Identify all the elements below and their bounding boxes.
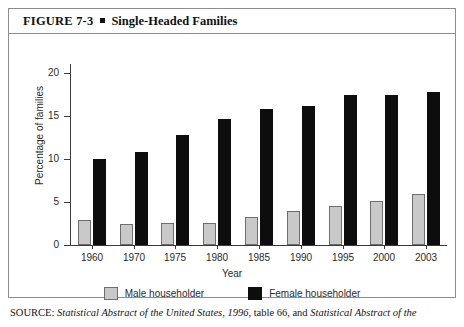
bar-male-1980 [203,223,216,245]
y-axis-tick-label: 0 [29,240,59,250]
bar-group [238,64,280,245]
x-axis-tick-label: 2003 [403,252,449,263]
x-axis-tick [301,245,302,249]
bar-male-1995 [329,206,342,245]
x-axis-title: Year [9,268,455,279]
source-label: SOURCE: [10,307,54,318]
bar-group [113,64,155,245]
x-axis-tick-label: 1995 [320,252,366,263]
bullet-icon [100,18,105,23]
legend-swatch-male-icon [104,287,118,300]
bar-male-1990 [287,211,300,245]
bar-group [196,64,238,245]
bar-female-1995 [344,95,357,245]
legend-item-male: Male householder [104,287,205,300]
y-axis-tick-label: 10 [29,154,59,164]
x-axis-tick [217,245,218,249]
bar-female-1990 [302,106,315,245]
bar-group [322,64,364,245]
bars-layer [71,64,447,245]
legend-label-female: Female householder [269,288,360,299]
bar-female-1960 [93,159,106,245]
x-axis-tick-label: 1975 [152,252,198,263]
x-axis-tick-label: 1990 [278,252,324,263]
bar-female-1970 [135,152,148,245]
x-axis-tick [134,245,135,249]
x-axis-tick [384,245,385,249]
y-axis-tick [64,116,70,117]
source-title-1: Statistical Abstract of the United State… [57,307,248,318]
source-note: SOURCE: Statistical Abstract of the Unit… [10,306,456,319]
y-axis-tick-label: 20 [29,68,59,78]
figure-frame: FIGURE 7-3 Single-Headed Families Percen… [8,8,456,298]
x-axis-tick [92,245,93,249]
bar-group [363,64,405,245]
bar-female-2000 [385,95,398,245]
bar-male-2003 [412,194,425,245]
legend-label-male: Male householder [125,288,205,299]
figure-title-band: FIGURE 7-3 Single-Headed Families [9,9,455,34]
source-title-2: Statistical Abstract of the [310,307,416,318]
bar-group [155,64,197,245]
y-axis-tick [64,159,70,160]
x-axis-tick [343,245,344,249]
x-axis-tick [426,245,427,249]
bar-male-1975 [161,223,174,245]
bar-female-1980 [218,119,231,245]
legend-item-female: Female householder [248,287,360,300]
legend-swatch-female-icon [248,287,262,300]
bar-group [71,64,113,245]
y-axis-tick [64,245,70,246]
chart-plot-area: Percentage of families 05101520 19601970… [9,34,455,298]
chart-legend: Male householder Female householder [9,287,455,300]
x-axis-tick-label: 1980 [194,252,240,263]
x-axis-tick-label: 1960 [69,252,115,263]
x-axis-tick-label: 2000 [361,252,407,263]
bar-female-2003 [427,92,440,245]
figure-title: Single-Headed Families [111,14,237,29]
y-axis-tick-label: 5 [29,197,59,207]
source-middle: , table 66, and [248,307,310,318]
bar-male-1960 [78,220,91,245]
bar-male-1970 [120,224,133,245]
figure-number: FIGURE 7-3 [23,14,93,29]
x-axis-tick [259,245,260,249]
bar-male-2000 [370,201,383,245]
y-axis-tick [64,202,70,203]
x-axis-tick [175,245,176,249]
bar-group [280,64,322,245]
bar-female-1985 [260,109,273,245]
bar-female-1975 [176,135,189,245]
bar-male-1985 [245,217,258,245]
bar-group [405,64,447,245]
y-axis-tick-label: 15 [29,111,59,121]
y-axis-title: Percentage of families [34,61,45,211]
x-axis-tick-label: 1970 [111,252,157,263]
y-axis-tick [64,73,70,74]
x-axis-tick-label: 1985 [236,252,282,263]
